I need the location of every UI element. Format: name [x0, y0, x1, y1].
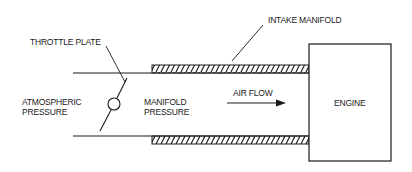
manifold-bottom-hatch [152, 136, 309, 144]
throttle-plate-icon [100, 78, 127, 131]
atmospheric-label-line1: ATMOSPHERIC [22, 97, 82, 107]
throttle-leader [106, 46, 125, 82]
atmospheric-label-line2: PRESSURE [22, 107, 67, 117]
manifold-pressure-label-line1: MANIFOLD [144, 97, 186, 107]
engine-label: ENGINE [334, 98, 365, 108]
manifold-leader [232, 25, 263, 61]
air-flow-label: AIR FLOW [233, 88, 273, 98]
throttle-plate-label: THROTTLE PLATE [30, 37, 101, 47]
manifold-top-hatch [152, 65, 309, 73]
manifold-pressure-label-line2: PRESSURE [144, 107, 189, 117]
intake-diagram [0, 0, 412, 172]
air-flow-arrow-icon [227, 100, 286, 107]
intake-manifold-label: INTAKE MANIFOLD [268, 15, 341, 25]
